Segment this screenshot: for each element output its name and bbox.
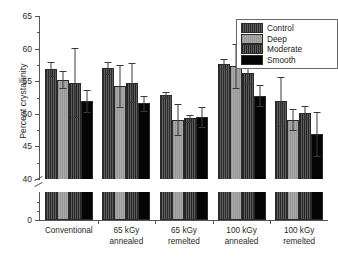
error-bar-cap-lower bbox=[256, 106, 263, 107]
y-tick-label-40: 40 bbox=[10, 175, 32, 184]
x-tick bbox=[98, 220, 99, 224]
x-label-line1: Conventional bbox=[40, 226, 98, 237]
y-tick-label-0: 0 bbox=[10, 216, 32, 225]
y-tick-label-50: 50 bbox=[10, 110, 32, 119]
error-bar-cap-lower bbox=[186, 122, 193, 123]
legend-item-control: Control bbox=[241, 23, 333, 34]
bar-rect bbox=[126, 83, 138, 220]
error-bar-cap-upper bbox=[105, 62, 112, 63]
error-bar bbox=[177, 104, 178, 135]
x-label-1: 65 kGyannealed bbox=[98, 226, 156, 247]
error-bar-cap-lower bbox=[302, 119, 309, 120]
error-bar-cap-upper bbox=[256, 85, 263, 86]
legend-item-smooth: Smooth bbox=[241, 55, 333, 66]
error-bar bbox=[201, 107, 202, 127]
error-bar-cap-lower bbox=[278, 126, 285, 127]
bar-rect bbox=[102, 68, 114, 220]
error-bar-cap-upper bbox=[302, 106, 309, 107]
axis-break-band bbox=[40, 179, 328, 192]
error-bar-cap-upper bbox=[278, 77, 285, 78]
error-bar-cap-lower bbox=[141, 111, 148, 112]
legend-item-deep: Deep bbox=[241, 34, 333, 45]
error-bar-cap-upper bbox=[71, 48, 78, 49]
y-tick-label-55: 55 bbox=[10, 77, 32, 86]
error-bar bbox=[62, 71, 63, 88]
bar-rect bbox=[160, 95, 172, 220]
error-bar-cap-lower bbox=[244, 84, 251, 85]
error-bar-cap-lower bbox=[220, 69, 227, 70]
error-bar bbox=[223, 59, 224, 69]
error-bar-cap-lower bbox=[47, 76, 54, 77]
x-label-line1: 100 kGy bbox=[270, 226, 328, 237]
bar-rect bbox=[138, 103, 150, 220]
bar-rect bbox=[57, 80, 69, 220]
legend: Control Deep Moderate Smooth bbox=[236, 19, 338, 69]
legend-swatch-smooth bbox=[241, 55, 263, 65]
error-bar bbox=[86, 90, 87, 112]
x-tick bbox=[213, 220, 214, 224]
error-bar-cap-lower bbox=[129, 102, 136, 103]
x-axis-line bbox=[40, 220, 328, 221]
x-tick bbox=[270, 220, 271, 224]
error-bar-cap-lower bbox=[290, 130, 297, 131]
error-bar bbox=[144, 96, 145, 110]
x-label-3: 100 kGyannealed bbox=[213, 226, 271, 247]
bar-rect bbox=[254, 96, 266, 220]
error-bar bbox=[108, 62, 109, 74]
x-label-0: Conventional bbox=[40, 226, 98, 247]
error-bar bbox=[305, 106, 306, 119]
error-bar-cap-upper bbox=[220, 59, 227, 60]
x-label-line2: remelted bbox=[270, 237, 328, 248]
error-bar-cap-lower bbox=[117, 107, 124, 108]
error-bar bbox=[50, 62, 51, 76]
error-bar bbox=[317, 112, 318, 155]
x-label-4: 100 kGyremelted bbox=[270, 226, 328, 247]
error-bar-cap-upper bbox=[174, 104, 181, 105]
legend-label-deep: Deep bbox=[267, 34, 287, 44]
legend-label-smooth: Smooth bbox=[267, 55, 296, 65]
x-label-line1: 65 kGy bbox=[98, 226, 156, 237]
bar-rect bbox=[184, 118, 196, 220]
bar-rect bbox=[299, 113, 311, 221]
bar-rect bbox=[196, 117, 208, 220]
x-label-line2: remelted bbox=[155, 237, 213, 248]
x-label-line1: 100 kGy bbox=[213, 226, 271, 237]
x-tick bbox=[155, 220, 156, 224]
error-bar-cap-upper bbox=[47, 62, 54, 63]
legend-swatch-deep bbox=[241, 34, 263, 44]
error-bar-cap-upper bbox=[141, 96, 148, 97]
error-bar-cap-lower bbox=[59, 88, 66, 89]
legend-swatch-moderate bbox=[241, 44, 263, 54]
error-bar-cap-upper bbox=[129, 63, 136, 64]
x-label-2: 65 kGyremelted bbox=[155, 226, 213, 247]
error-bar bbox=[259, 85, 260, 106]
y-tick-label-45: 45 bbox=[10, 142, 32, 151]
x-label-line2: annealed bbox=[98, 237, 156, 248]
error-bar-cap-lower bbox=[105, 74, 112, 75]
bar-rect bbox=[287, 120, 299, 220]
error-bar-cap-upper bbox=[162, 92, 169, 93]
legend-item-moderate: Moderate bbox=[241, 44, 333, 55]
error-bar-cap-lower bbox=[83, 112, 90, 113]
error-bar bbox=[74, 48, 75, 117]
y-tick-label-60: 60 bbox=[10, 45, 32, 54]
error-bar bbox=[132, 63, 133, 102]
error-bar bbox=[120, 65, 121, 107]
error-bar-cap-lower bbox=[232, 88, 239, 89]
error-bar-cap-upper bbox=[186, 115, 193, 116]
x-label-line1: 65 kGy bbox=[155, 226, 213, 237]
bar-rect bbox=[218, 64, 230, 220]
bar-rect bbox=[45, 69, 57, 220]
error-bar-cap-upper bbox=[83, 90, 90, 91]
bar-rect bbox=[81, 101, 93, 220]
x-axis-labels: Conventional65 kGyannealed65 kGyremelted… bbox=[40, 226, 328, 247]
y-tick-label-65: 65 bbox=[10, 12, 32, 21]
bar-rect bbox=[242, 73, 254, 220]
error-bar-cap-upper bbox=[117, 65, 124, 66]
legend-label-moderate: Moderate bbox=[267, 44, 302, 54]
error-bar-cap-lower bbox=[198, 127, 205, 128]
error-bar-cap-lower bbox=[162, 98, 169, 99]
error-bar-cap-upper bbox=[314, 112, 321, 113]
error-bar-cap-upper bbox=[198, 107, 205, 108]
